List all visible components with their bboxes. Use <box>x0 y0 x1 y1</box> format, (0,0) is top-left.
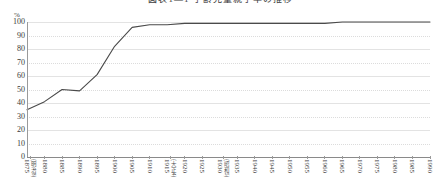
x-axis-tick-mark <box>237 156 238 159</box>
tick-era-annotation: (大正4) <box>170 159 177 177</box>
tick-year: 1920 <box>181 159 188 173</box>
tick-year: 1905 <box>128 159 135 173</box>
x-axis-tick-label: 1875(明治8) <box>23 159 37 177</box>
tick-year: 1970 <box>356 159 363 173</box>
y-axis-tick-label: 70 <box>1 59 25 67</box>
x-axis-tick-mark <box>272 156 273 159</box>
tick-year: 1945 <box>268 159 275 173</box>
tick-year: 1990 <box>426 159 433 173</box>
y-axis-tick-label: 40 <box>1 99 25 107</box>
tick-era-annotation: (昭和5) <box>223 159 230 177</box>
x-axis-tick-label: 1960 <box>321 159 328 173</box>
x-axis-tick-mark <box>223 156 224 159</box>
x-axis-tick-label: 1890 <box>76 159 83 173</box>
y-axis-tick-label: 100 <box>1 18 25 26</box>
series-line-enrollment-rate <box>27 22 430 157</box>
tick-era-annotation: (明治8) <box>30 159 37 177</box>
y-axis-tick-label: 50 <box>1 86 25 94</box>
tick-year: 1960 <box>321 159 328 173</box>
x-axis-tick-mark <box>79 156 80 159</box>
y-axis-tick-label: 20 <box>1 126 25 134</box>
x-axis-tick-mark <box>97 156 98 159</box>
x-axis-tick-mark <box>44 156 45 159</box>
x-axis-tick-label: 1985 <box>408 159 415 173</box>
y-axis-line <box>27 22 28 158</box>
x-axis-tick-mark <box>412 156 413 159</box>
x-axis-tick-label: 1935 <box>233 159 240 173</box>
x-axis-tick-label: 1955 <box>303 159 310 173</box>
x-axis-tick-mark <box>430 156 431 159</box>
x-axis-tick-mark <box>202 156 203 159</box>
y-axis-tick-label: 60 <box>1 72 25 80</box>
tick-year: 1910 <box>146 159 153 173</box>
tick-year: 1915 <box>163 159 170 173</box>
y-axis-tick-label: 80 <box>1 45 25 53</box>
tick-year: 1965 <box>338 159 345 173</box>
x-axis-tick-label: 1925 <box>198 159 205 173</box>
y-axis-tick-labels: 1009080706050403020100 <box>0 0 25 193</box>
tick-year: 1900 <box>111 159 118 173</box>
x-axis-tick-mark <box>324 156 325 159</box>
x-axis-tick-label: 1975 <box>373 159 380 173</box>
x-axis-tick-label: 1915(大正4) <box>163 159 177 177</box>
tick-year: 1975 <box>373 159 380 173</box>
x-axis-tick-label: 1920 <box>181 159 188 173</box>
x-axis-tick-label: 1940 <box>251 159 258 173</box>
x-axis-tick-mark <box>149 156 150 159</box>
tick-year: 1950 <box>286 159 293 173</box>
tick-year: 1940 <box>251 159 258 173</box>
x-axis-tick-mark <box>184 156 185 159</box>
x-axis-tick-label: 1965 <box>338 159 345 173</box>
x-axis-tick-label: 1895 <box>93 159 100 173</box>
x-axis-tick-label: 1885 <box>58 159 65 173</box>
tick-year: 1980 <box>391 159 398 173</box>
chart-title: 図表1―1 学齢児童就学率の推移 <box>0 0 441 5</box>
x-axis-tick-mark <box>30 156 31 159</box>
x-axis-tick-mark <box>170 156 171 159</box>
x-axis-tick-mark <box>342 156 343 159</box>
tick-year: 1880 <box>41 159 48 173</box>
x-axis-tick-mark <box>289 156 290 159</box>
x-axis-tick-label: 1980 <box>391 159 398 173</box>
tick-year: 1935 <box>233 159 240 173</box>
x-axis-tick-mark <box>114 156 115 159</box>
x-axis-tick-mark <box>132 156 133 159</box>
data-line <box>27 22 430 110</box>
x-axis-tick-mark <box>254 156 255 159</box>
x-axis-tick-label: 1900 <box>111 159 118 173</box>
tick-year: 1890 <box>76 159 83 173</box>
tick-year: 1925 <box>198 159 205 173</box>
y-axis-tick-label: 30 <box>1 113 25 121</box>
x-axis-tick-label: 1880 <box>41 159 48 173</box>
x-axis-tick-mark <box>359 156 360 159</box>
x-axis-tick-label: 1910 <box>146 159 153 173</box>
x-axis-tick-label: 1905 <box>128 159 135 173</box>
x-axis-tick-label: 1990 <box>426 159 433 173</box>
tick-year: 1985 <box>408 159 415 173</box>
tick-year: 1875 <box>23 159 30 173</box>
y-axis-tick-label: 0 <box>1 153 25 161</box>
tick-year: 1955 <box>303 159 310 173</box>
x-axis-line <box>27 157 430 158</box>
y-axis-tick-label: 90 <box>1 32 25 40</box>
x-axis-tick-label: 1930(昭和5) <box>216 159 230 177</box>
x-axis-tick-mark <box>62 156 63 159</box>
chart-container: 図表1―1 学齢児童就学率の推移 % 100908070605040302010… <box>0 0 441 193</box>
plot-area <box>27 22 430 157</box>
x-axis-tick-label: 1970 <box>356 159 363 173</box>
tick-year: 1885 <box>58 159 65 173</box>
y-axis-tick-label: 10 <box>1 140 25 148</box>
x-axis-tick-label: 1950 <box>286 159 293 173</box>
x-axis-tick-label: 1945 <box>268 159 275 173</box>
tick-year: 1930 <box>216 159 223 173</box>
x-axis-tick-mark <box>377 156 378 159</box>
x-axis-tick-labels: 1875(明治8)1880188518901895190019051910191… <box>27 159 430 193</box>
x-axis-tick-mark <box>307 156 308 159</box>
tick-year: 1895 <box>93 159 100 173</box>
x-axis-tick-mark <box>394 156 395 159</box>
